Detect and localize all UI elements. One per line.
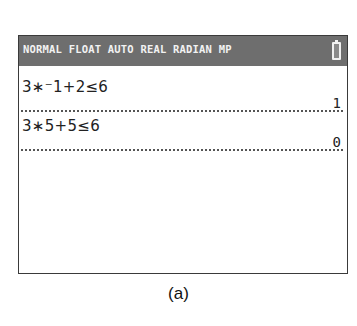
result: 1 [333,95,341,111]
history-entry: 3∗5+5≤6 0 [19,113,347,151]
figure-caption: (a) [0,284,357,304]
expression: 3∗⁻1+2≤6 [22,78,108,96]
history-entry: 3∗⁻1+2≤6 1 [19,74,347,112]
status-bar: NORMAL FLOAT AUTO REAL RADIAN MP [19,36,347,66]
entry-divider [21,149,343,151]
mode-indicators: NORMAL FLOAT AUTO REAL RADIAN MP [23,43,232,55]
expression: 3∗5+5≤6 [22,117,100,135]
result: 0 [333,134,341,150]
calculator-screen: NORMAL FLOAT AUTO REAL RADIAN MP 3∗⁻1+2≤… [18,35,348,274]
battery-icon [332,42,341,60]
entry-divider [21,110,343,112]
